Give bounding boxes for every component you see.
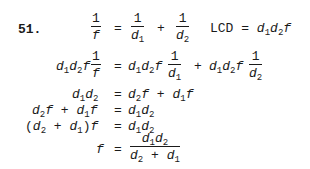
equals: = — [114, 60, 122, 73]
equals: = — [114, 88, 122, 101]
denominator: f — [92, 65, 100, 80]
denominator: d2 + d1 — [130, 147, 180, 162]
fraction-result: d1d2 d2 + d1 — [130, 132, 180, 162]
lhs: d2f + d1f — [32, 104, 98, 117]
plus: + — [157, 22, 165, 35]
fraction-1-over-d2: 1 d2 — [249, 50, 262, 80]
lhs-f: f — [96, 143, 104, 156]
lhs: (d2 + d1)f — [25, 120, 98, 133]
denominator: d2 — [176, 27, 189, 42]
numerator: 1 — [251, 50, 261, 64]
numerator: 1 — [178, 12, 188, 26]
fraction-1-over-d1: 1 d1 — [168, 50, 181, 80]
denominator: f — [92, 27, 100, 42]
lhs: d1d2 — [72, 88, 98, 101]
lhs-d1d2f: d1d2f — [56, 60, 90, 73]
numerator: 1 — [91, 50, 101, 64]
numerator: d1d2 — [141, 132, 169, 146]
equals: = — [114, 120, 122, 133]
plus: + — [194, 60, 202, 73]
equals: = — [114, 104, 122, 117]
term-d1d2f: d1d2f — [209, 60, 243, 73]
fraction-1-over-d2: 1 d2 — [176, 12, 189, 42]
denominator: d2 — [249, 65, 262, 80]
numerator: 1 — [91, 12, 101, 26]
fraction-1-over-d1: 1 d1 — [131, 12, 144, 42]
numerator: 1 — [170, 50, 180, 64]
equals: = — [114, 22, 122, 35]
fraction-1-over-f: 1 f — [91, 12, 101, 42]
rhs: d2f + d1f — [128, 88, 194, 101]
numerator: 1 — [133, 12, 143, 26]
problem-number: 51. — [18, 23, 41, 36]
rhs: d1d2 — [128, 104, 154, 117]
term-d1d2f: d1d2f — [128, 60, 162, 73]
lcd-note: LCD = d1d2f — [210, 22, 291, 35]
fraction-1-over-f: 1 f — [91, 50, 101, 80]
denominator: d1 — [131, 27, 144, 42]
equals: = — [114, 143, 122, 156]
denominator: d1 — [168, 65, 181, 80]
